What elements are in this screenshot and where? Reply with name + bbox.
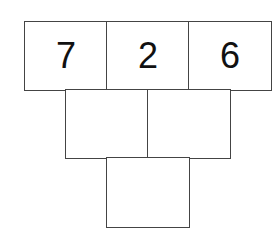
pyramid-cell-r1-c1: 7 [24,21,108,91]
pyramid-cell-r1-c3: 6 [188,21,272,91]
pyramid-cell-r2-c1[interactable] [65,89,149,159]
pyramid-cell-r3-c1[interactable] [106,157,190,228]
cell-value: 7 [56,38,76,74]
cell-value: 6 [220,38,240,74]
cell-value: 2 [138,38,158,74]
pyramid-cell-r1-c2: 2 [106,21,190,91]
pyramid-cell-r2-c2[interactable] [147,89,231,159]
